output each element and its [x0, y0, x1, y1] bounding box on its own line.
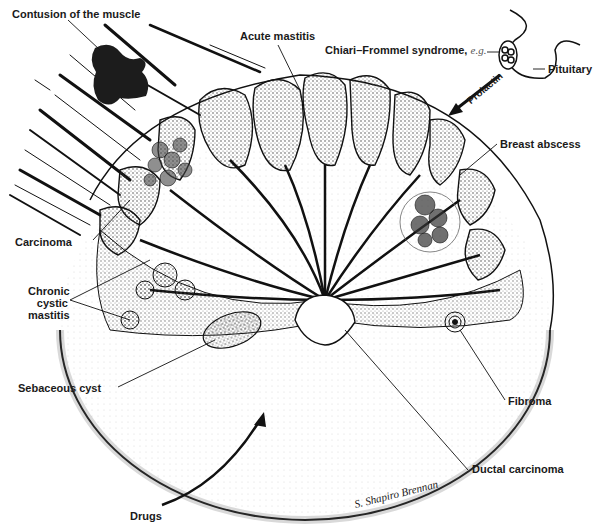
label-chiari-frommel: Chiari–Frommel syndrome, e.g.: [325, 44, 486, 56]
label-chiari-name: Chiari–Frommel syndrome,: [325, 44, 467, 56]
breast-illustration: [0, 0, 596, 526]
label-ductal-carcinoma: Ductal carcinoma: [472, 463, 564, 475]
label-acute-mastitis: Acute mastitis: [240, 30, 315, 42]
label-carcinoma: Carcinoma: [15, 236, 72, 248]
label-chronic-line-1: Chronic: [28, 285, 68, 297]
label-pituitary: Pituitary: [548, 63, 592, 75]
label-chiari-eg: e.g.: [471, 44, 487, 56]
label-breast-abscess: Breast abscess: [500, 138, 581, 150]
label-chronic-line-3: mastitis: [28, 309, 68, 321]
label-chronic-line-2: cystic: [28, 297, 68, 309]
label-fibroma: Fibroma: [508, 395, 551, 407]
diagram-canvas: Contusion of the muscle Acute mastitis C…: [0, 0, 596, 526]
label-contusion: Contusion of the muscle: [12, 8, 140, 20]
label-drugs: Drugs: [130, 510, 162, 522]
label-chronic-cystic-mastitis: Chronic cystic mastitis: [28, 285, 68, 321]
label-sebaceous-cyst: Sebaceous cyst: [18, 382, 101, 394]
